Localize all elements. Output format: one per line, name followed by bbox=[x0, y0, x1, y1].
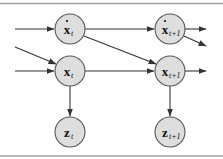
edge-xdot-t-x-t1 bbox=[84, 36, 156, 64]
dot-accent-icon bbox=[164, 20, 166, 22]
node-label: x bbox=[162, 22, 169, 37]
node-xdot_t: xt bbox=[55, 14, 85, 44]
node-x_t: xt bbox=[55, 56, 85, 86]
node-label: z bbox=[64, 125, 70, 140]
node-z_t: zt bbox=[55, 117, 85, 147]
node-subscript: t+1 bbox=[169, 132, 181, 141]
node-circle bbox=[55, 117, 85, 147]
edge-in-diag-x-t bbox=[15, 47, 56, 64]
edge-xdot-t1-out-diag bbox=[184, 36, 206, 46]
node-label: x bbox=[162, 64, 169, 79]
node-label: z bbox=[162, 125, 168, 140]
node-xdot_t1: xt+1 bbox=[155, 14, 185, 44]
node-subscript: t+1 bbox=[169, 29, 181, 38]
node-z_t1: zt+1 bbox=[155, 117, 185, 147]
node-x_t1: xt+1 bbox=[155, 56, 185, 86]
node-label: x bbox=[64, 64, 71, 79]
dbn-diagram: xtxtztxt+1xt+1zt+1 bbox=[0, 0, 223, 159]
node-subscript: t+1 bbox=[169, 71, 181, 80]
node-label: x bbox=[64, 22, 71, 37]
dot-accent-icon bbox=[66, 20, 68, 22]
